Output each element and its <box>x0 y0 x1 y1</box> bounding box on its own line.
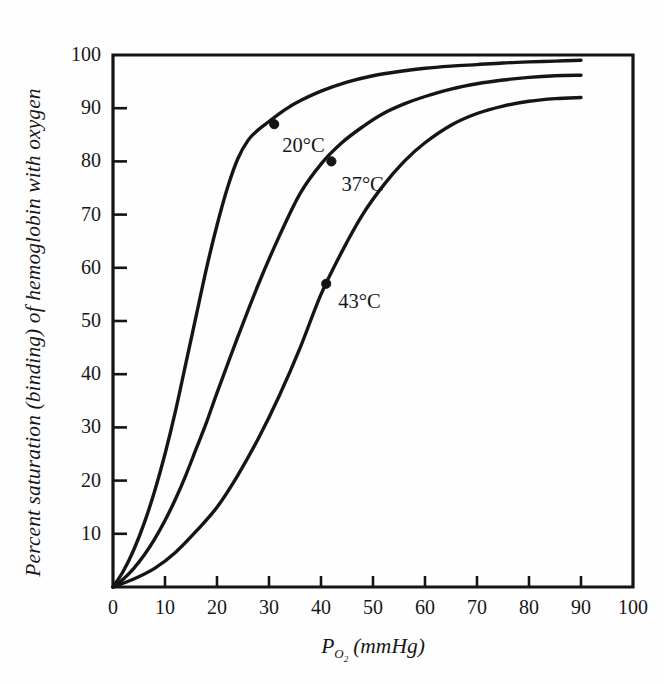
y-tick-label: 60 <box>57 256 101 279</box>
curve-label-37c: 37°C <box>341 173 383 196</box>
curve-37c <box>113 75 581 587</box>
y-tick-label: 50 <box>57 309 101 332</box>
marker-43c <box>322 279 331 288</box>
curve-label-20c: 20°C <box>282 134 324 157</box>
x-tick-label: 30 <box>246 596 292 619</box>
data-curves <box>113 60 581 587</box>
y-tick-label: 70 <box>57 203 101 226</box>
y-tick-label: 80 <box>57 149 101 172</box>
x-tick-label: 60 <box>402 596 448 619</box>
y-tick-label: 90 <box>57 96 101 119</box>
marker-37c <box>327 157 336 166</box>
x-tick-label: 70 <box>454 596 500 619</box>
y-tick-label: 20 <box>57 469 101 492</box>
x-tick-label: 100 <box>610 596 656 619</box>
y-tick-label: 100 <box>57 43 101 66</box>
plot-border <box>113 55 633 587</box>
chart-figure: Percent saturation (binding) of hemoglob… <box>0 0 664 684</box>
x-tick-label: 80 <box>506 596 552 619</box>
x-tick-label: 40 <box>298 596 344 619</box>
x-tick-label: 20 <box>194 596 240 619</box>
curve-43c <box>113 98 581 587</box>
curve-label-43c: 43°C <box>338 290 380 313</box>
y-tick-label: 40 <box>57 362 101 385</box>
plot-frame <box>113 55 633 587</box>
x-tick-label: 10 <box>142 596 188 619</box>
y-tick-label: 10 <box>57 522 101 545</box>
marker-20c <box>270 120 279 129</box>
y-tick-label: 30 <box>57 415 101 438</box>
x-tick-label: 0 <box>90 596 136 619</box>
x-tick-label: 90 <box>558 596 604 619</box>
x-tick-label: 50 <box>350 596 396 619</box>
